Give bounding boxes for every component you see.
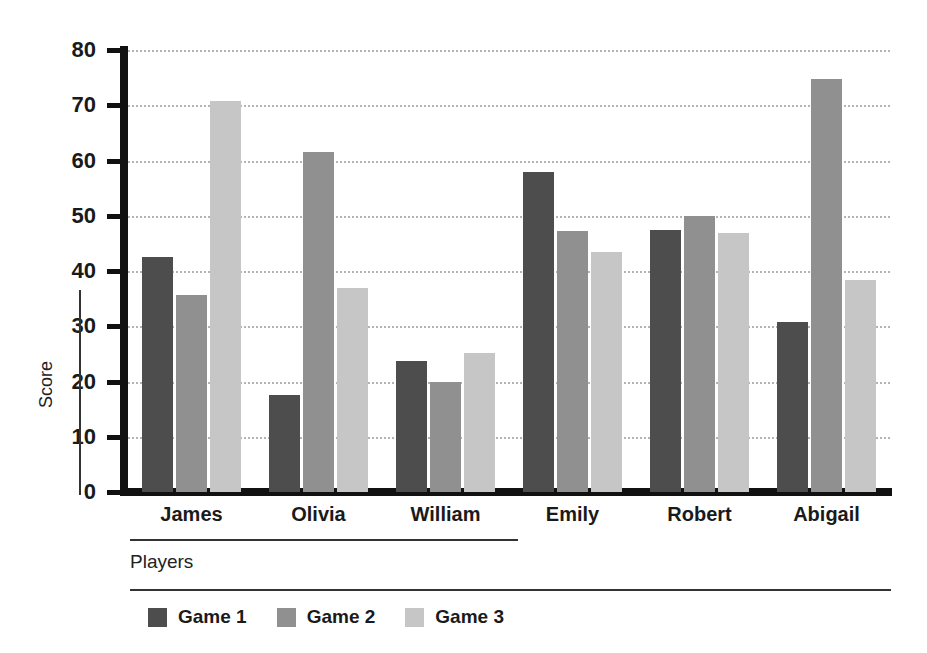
legend-swatch-icon [405, 608, 424, 627]
x-tick-label: Abigail [793, 503, 860, 526]
bar[interactable] [777, 322, 808, 492]
y-tick-label: 40 [52, 260, 96, 282]
x-tick-label: Olivia [291, 503, 345, 526]
bar[interactable] [396, 361, 427, 492]
y-tick-mark [107, 48, 120, 53]
plot-area [128, 50, 890, 492]
bar[interactable] [811, 79, 842, 492]
bar[interactable] [557, 231, 588, 492]
bar[interactable] [591, 252, 622, 492]
y-axis-spine [120, 46, 128, 494]
bar-group [128, 50, 255, 492]
y-tick-mark [107, 269, 120, 274]
legend-label: Game 3 [435, 606, 504, 628]
x-axis-title-rule [130, 539, 518, 541]
y-tick-label: 60 [52, 150, 96, 172]
bar[interactable] [337, 288, 368, 492]
bar[interactable] [650, 230, 681, 492]
legend-divider-rule [130, 589, 891, 591]
legend-label: Game 1 [178, 606, 247, 628]
y-tick-mark [107, 324, 120, 329]
x-tick-label: Emily [546, 503, 599, 526]
bar-group [509, 50, 636, 492]
bar[interactable] [523, 172, 554, 492]
y-axis-title: Score [36, 361, 57, 408]
x-tick-label: James [160, 503, 222, 526]
y-tick-label: 10 [52, 426, 96, 448]
x-tick-label: Robert [667, 503, 731, 526]
bar-chart-figure: 01020304050607080 JamesOliviaWilliamEmil… [0, 0, 927, 653]
legend-item[interactable]: Game 1 [148, 606, 247, 628]
y-tick-label: 70 [52, 94, 96, 116]
x-axis-title: Players [130, 551, 193, 573]
legend-swatch-icon [148, 608, 167, 627]
y-tick-mark [107, 103, 120, 108]
bar[interactable] [684, 216, 715, 492]
bar[interactable] [718, 233, 749, 492]
bar[interactable] [269, 395, 300, 492]
y-tick-label: 0 [52, 481, 96, 503]
bar-group [636, 50, 763, 492]
x-tick-label: William [411, 503, 481, 526]
y-tick-label: 20 [52, 371, 96, 393]
y-axis-title-rule [79, 290, 81, 495]
y-tick-label: 30 [52, 315, 96, 337]
bar-group [763, 50, 890, 492]
bar[interactable] [210, 101, 241, 492]
bar[interactable] [845, 280, 876, 492]
y-tick-mark [107, 159, 120, 164]
y-tick-mark [107, 214, 120, 219]
y-tick-mark [107, 435, 120, 440]
bar[interactable] [176, 295, 207, 492]
legend: Game 1Game 2Game 3 [148, 606, 504, 628]
bar[interactable] [430, 382, 461, 492]
y-tick-mark [107, 380, 120, 385]
legend-item[interactable]: Game 3 [405, 606, 504, 628]
bar-group [382, 50, 509, 492]
bar[interactable] [303, 152, 334, 492]
y-tick-label: 80 [52, 39, 96, 61]
bar-group [255, 50, 382, 492]
bar[interactable] [464, 353, 495, 492]
legend-label: Game 2 [307, 606, 376, 628]
y-tick-label: 50 [52, 205, 96, 227]
bar[interactable] [142, 257, 173, 492]
y-tick-mark [107, 490, 120, 495]
legend-swatch-icon [277, 608, 296, 627]
legend-item[interactable]: Game 2 [277, 606, 376, 628]
